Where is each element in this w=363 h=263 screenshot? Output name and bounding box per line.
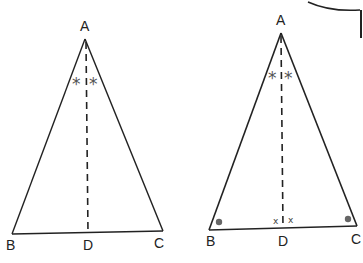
vertex-label-b: B	[6, 237, 15, 253]
vertex-label-a: A	[80, 18, 90, 34]
diagram-canvas: A B D C * * A B D C * * x x	[0, 0, 363, 263]
side-ab	[209, 33, 281, 230]
side-ac	[281, 33, 357, 226]
side-ac	[85, 39, 163, 231]
side-ab	[12, 39, 85, 234]
vertex-label-c: C	[351, 231, 361, 247]
vertex-label-d: D	[83, 237, 93, 253]
angle-mark-foot-right: x	[288, 215, 294, 225]
angle-mark-right: *	[284, 68, 293, 88]
angle-mark-right: *	[89, 74, 98, 94]
vertex-label-c: C	[154, 235, 164, 251]
triangle-2: A B D C * * x x	[206, 12, 361, 249]
angle-mark-foot-left: x	[273, 216, 279, 226]
side-bc	[12, 231, 163, 234]
bisector-ad	[86, 42, 88, 233]
triangle-1: A B D C * *	[6, 18, 164, 253]
angle-mark-left: *	[268, 68, 277, 88]
angle-mark-left: *	[72, 74, 81, 94]
angle-dot-c	[345, 216, 351, 222]
partial-curve	[308, 2, 360, 10]
vertex-label-b: B	[206, 233, 215, 249]
vertex-label-a: A	[276, 12, 286, 28]
vertex-label-d: D	[278, 233, 288, 249]
angle-dot-b	[216, 219, 222, 225]
bisector-ad	[281, 36, 283, 228]
